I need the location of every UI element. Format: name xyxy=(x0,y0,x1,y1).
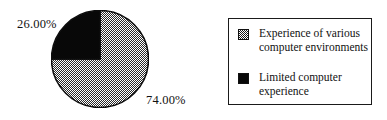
pie-slice-black xyxy=(52,11,101,60)
pie-chart-figure: 26.00% 74.00% Experience of various comp… xyxy=(0,0,387,120)
legend-item-label: Limited computer experience xyxy=(259,71,371,98)
black-solid-swatch-icon xyxy=(238,73,249,84)
pie-chart-svg xyxy=(51,10,149,108)
gray-dither-swatch-icon xyxy=(238,29,249,40)
pie-label-gray-slice: 74.00% xyxy=(146,93,186,108)
chart-legend: Experience of various computer environme… xyxy=(228,18,372,105)
legend-item-experience-various: Experience of various computer environme… xyxy=(238,27,371,54)
legend-item-label: Experience of various computer environme… xyxy=(259,27,371,54)
pie-chart xyxy=(51,10,149,108)
legend-item-limited-experience: Limited computer experience xyxy=(238,71,371,98)
pie-label-black-slice: 26.00% xyxy=(17,17,57,32)
